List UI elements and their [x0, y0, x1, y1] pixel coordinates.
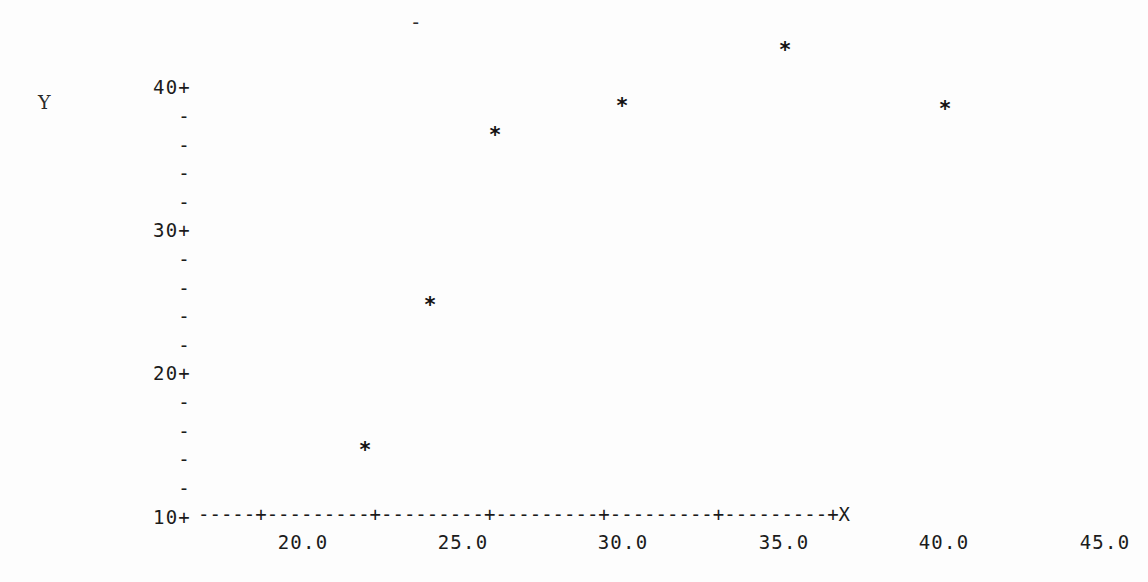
- data-point-marker: *: [939, 99, 952, 120]
- x-axis-tick-labels: 20.025.030.035.040.045.0: [0, 531, 1148, 557]
- x-axis-tick-label-30-0: 30.0: [598, 531, 649, 553]
- x-axis-tick-label-45-0: 45.0: [1080, 531, 1131, 553]
- data-point-marker: *: [424, 295, 437, 316]
- data-point-marker: *: [359, 440, 372, 461]
- x-axis-tick-label-20-0: 20.0: [278, 531, 329, 553]
- data-marker-layer: ******: [0, 0, 1148, 582]
- x-axis-rule: -----+---------+---------+---------+----…: [198, 503, 850, 525]
- ascii-scatter-plot: Y 40+----30+----20+----10+ - ****** ----…: [0, 0, 1148, 582]
- data-point-marker: *: [616, 96, 629, 117]
- x-axis-tick-label-35-0: 35.0: [759, 531, 810, 553]
- x-axis-tick-label-25-0: 25.0: [438, 531, 489, 553]
- data-point-marker: *: [489, 125, 502, 146]
- x-axis-tick-label-40-0: 40.0: [919, 531, 970, 553]
- data-point-marker: *: [779, 40, 792, 61]
